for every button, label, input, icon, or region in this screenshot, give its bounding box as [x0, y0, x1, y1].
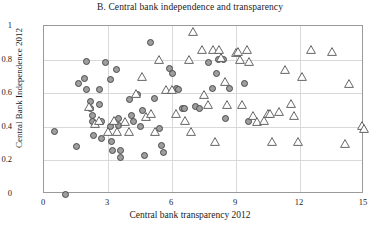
y-tick-label: 0.8: [0, 54, 12, 64]
data-point-triangle: [306, 45, 316, 54]
data-point-triangle: [293, 137, 303, 146]
data-point-triangle: [131, 89, 141, 98]
data-point-circle: [130, 118, 137, 125]
chart-figure: B. Central bank independence and transpa…: [0, 0, 380, 226]
data-point-triangle: [112, 127, 122, 136]
y-tick-label: 0.4: [0, 121, 12, 131]
x-tick-label: 0: [31, 197, 55, 207]
data-point-triangle: [184, 55, 194, 64]
data-point-circle: [75, 80, 82, 87]
data-point-triangle: [267, 137, 277, 146]
data-point-triangle: [222, 100, 232, 109]
data-point-triangle: [340, 139, 350, 148]
data-point-triangle: [220, 77, 230, 86]
data-point-circle: [147, 39, 154, 46]
data-point-triangle: [84, 102, 94, 111]
data-point-circle: [73, 143, 80, 150]
y-axis-label: Central Bank Independence 2012: [14, 8, 24, 168]
data-point-circle: [62, 191, 69, 198]
data-point-triangle: [297, 72, 307, 81]
chart-title: B. Central bank independence and transpa…: [0, 2, 380, 12]
data-point-triangle: [94, 116, 104, 125]
data-point-triangle: [197, 45, 207, 54]
gridline-horizontal: [44, 160, 362, 161]
data-point-circle: [117, 147, 124, 154]
gridline-vertical: [108, 26, 109, 192]
data-point-circle: [90, 132, 97, 139]
data-point-triangle: [203, 100, 213, 109]
data-point-triangle: [286, 99, 296, 108]
data-point-triangle: [154, 55, 164, 64]
gridline-vertical: [300, 26, 301, 192]
data-point-triangle: [120, 117, 130, 126]
data-point-triangle: [274, 107, 284, 116]
data-point-circle: [158, 142, 165, 149]
data-point-triangle: [237, 100, 247, 109]
y-tick-label: 0.2: [0, 154, 12, 164]
data-point-triangle: [344, 79, 354, 88]
data-point-triangle: [137, 72, 147, 81]
data-point-circle: [241, 80, 248, 87]
data-point-circle: [181, 105, 188, 112]
data-point-circle: [213, 70, 220, 77]
data-point-triangle: [242, 45, 252, 54]
gridline-horizontal: [44, 60, 362, 61]
data-point-circle: [51, 128, 58, 135]
data-point-circle: [196, 105, 203, 112]
data-point-circle: [209, 85, 216, 92]
data-point-circle: [96, 101, 103, 108]
data-point-circle: [160, 149, 167, 156]
data-point-triangle: [186, 127, 196, 136]
data-point-triangle: [359, 124, 369, 133]
data-point-circle: [222, 115, 229, 122]
data-point-circle: [141, 152, 148, 159]
data-point-triangle: [109, 116, 119, 125]
data-point-triangle: [124, 127, 134, 136]
data-point-triangle: [167, 85, 177, 94]
data-point-circle: [81, 75, 88, 82]
data-point-triangle: [289, 111, 299, 120]
data-point-triangle: [150, 127, 160, 136]
x-tick-label: 6: [159, 197, 183, 207]
data-point-triangle: [146, 109, 156, 118]
data-point-triangle: [280, 65, 290, 74]
data-point-triangle: [210, 137, 220, 146]
data-point-triangle: [188, 27, 198, 36]
x-axis-label: Central bank transparency 2012: [0, 210, 380, 220]
x-tick-label: 15: [351, 197, 375, 207]
data-point-circle: [113, 66, 120, 73]
y-tick-label: 0: [0, 188, 12, 198]
y-tick-label: 0.6: [0, 87, 12, 97]
data-point-circle: [192, 103, 199, 110]
x-tick-label: 12: [287, 197, 311, 207]
data-point-triangle: [180, 116, 190, 125]
x-tick-label: 3: [95, 197, 119, 207]
data-point-triangle: [216, 53, 226, 62]
plot-area: [43, 25, 363, 193]
y-tick-label: 1: [0, 20, 12, 30]
x-tick-label: 9: [223, 197, 247, 207]
data-point-triangle: [199, 90, 209, 99]
data-point-circle: [109, 147, 116, 154]
data-point-circle: [151, 95, 158, 102]
data-point-triangle: [327, 47, 337, 56]
data-point-triangle: [244, 57, 254, 66]
